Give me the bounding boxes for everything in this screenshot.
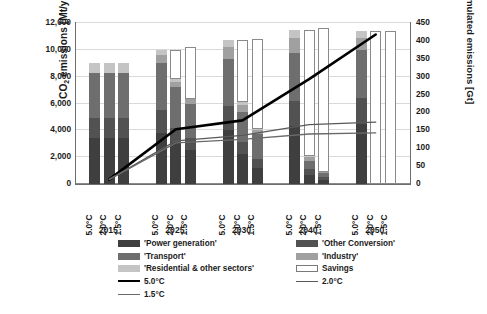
lines-layer [76,22,409,183]
legend-item[interactable]: 'Power generation' [118,239,217,249]
legend-swatch-icon [118,240,140,247]
y-axis-right-title: cumulated emissions [Gt] [465,0,476,121]
legend-swatch-icon [296,265,318,272]
legend-line-icon [118,280,140,282]
y-axis-left-tick-label: 8,000 [50,71,71,81]
y-axis-left-tick-label: 6,000 [50,98,71,108]
legend-label: 'Transport' [144,252,186,261]
y-axis-left-tick-label: 0 [66,178,71,188]
legend-item[interactable]: 'Transport' [118,252,186,262]
y-axis-left-tick-label: 12,000 [46,17,71,27]
legend-label: 'Industry' [322,252,358,261]
legend-item[interactable]: 1.5°C [118,290,165,300]
x-group-label-2040: 2040 [299,225,318,235]
y-axis-left-tick-label: 10,000 [46,44,71,54]
y-axis-right-tick-label: 350 [416,53,430,63]
legend-line-icon [296,281,318,282]
y-axis-right-tick-label: 450 [416,17,430,27]
y-axis-right-tick-label: 50 [416,160,425,170]
y-axis-right-tick-label: 0 [416,178,421,188]
y-axis-left-tick-label: 4,000 [50,124,71,134]
legend-swatch-icon [118,265,140,272]
legend-label: Savings [322,264,353,273]
y-axis-right-tick-label: 200 [416,106,430,116]
y-axis-left-tick-label: 2,000 [50,151,71,161]
x-axis-scenario-ticks: 5.0°C2.0°C1.5°C5.0°C2.0°C1.5°C5.0°C2.0°C… [75,187,411,225]
x-axis-year-labels: 20152025203020402050 [75,225,411,239]
legend-item[interactable]: 2.0°C [296,277,343,287]
legend-swatch-icon [296,240,318,247]
chart-figure: CO2 emissions [Mt/yr] cumulated emission… [0,0,487,314]
legend-label: 1.5°C [144,290,165,299]
plot-area [75,22,411,185]
legend-item[interactable]: 'Other Conversion' [296,239,395,249]
x-group-label-2030: 2030 [232,225,251,235]
legend-item[interactable]: 5.0°C [118,277,165,287]
y-axis-right-ticks: 450400350300250200150100500 [416,22,446,185]
legend-item[interactable]: 'Residential & other sectors' [118,264,254,274]
legend-label: 5.0°C [144,277,165,286]
legend-swatch-icon [118,253,140,260]
legend-item[interactable]: Savings [296,264,353,274]
y-axis-right-tick-label: 250 [416,89,430,99]
y-axis-left-ticks: 12,00010,0008,0006,0004,0002,0000 [20,22,71,185]
y-axis-right-tick-label: 100 [416,142,430,152]
y-axis-right-tick-label: 400 [416,35,430,45]
legend-label: 'Residential & other sectors' [144,264,254,273]
legend-item[interactable]: 'Industry' [296,252,358,262]
legend-line-icon [118,294,140,295]
x-group-label-2025: 2025 [165,225,184,235]
x-group-label-2050: 2050 [365,225,384,235]
y-axis-right-tick-label: 300 [416,71,430,81]
y-axis-right-tick-label: 150 [416,124,430,134]
x-group-label-2015: 2015 [99,225,118,235]
legend-swatch-icon [296,253,318,260]
legend-label: 'Other Conversion' [322,239,395,248]
legend-label: 2.0°C [322,277,343,286]
legend-label: 'Power generation' [144,239,217,248]
chart-legend: 'Power generation''Transport''Residentia… [118,239,458,305]
